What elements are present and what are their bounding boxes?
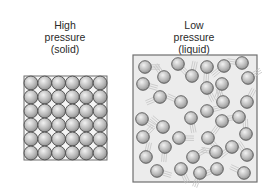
liquid-particle [218,60,231,73]
liquid-particle [211,163,224,176]
liquid-particle [202,132,215,145]
solid-particle [93,132,107,146]
liquid-particle [172,58,185,71]
liquid-particle [158,71,171,84]
liquid-particle [175,96,188,109]
solid-particle [66,90,80,104]
solid-particle [24,90,38,104]
liquid-particle [201,105,214,118]
solid-particle [52,132,66,146]
liquid-particle [226,141,239,154]
liquid-particle [137,78,150,91]
solid-particle [24,132,38,146]
solid-particle [93,118,107,132]
phase-diagram-canvas [0,0,273,192]
solid-particle [66,118,80,132]
solid-box-frame [24,76,107,160]
liquid-particle [194,167,207,180]
liquid-particle [157,121,170,134]
solid-particle [38,132,52,146]
solid-particle [24,104,38,118]
solid-particle [93,90,107,104]
solid-particle [79,76,93,90]
liquid-particle [154,91,167,104]
solid-particle [79,90,93,104]
solid-lattice-box [24,76,107,160]
liquid-particle [185,112,198,125]
solid-particle [66,132,80,146]
solid-particle [52,76,66,90]
liquid-particle [216,78,229,91]
solid-particle [79,118,93,132]
solid-particle [38,118,52,132]
liquid-particle [140,151,153,164]
solid-particle [52,146,66,160]
liquid-particle [201,82,214,95]
solid-particle [24,146,38,160]
liquid-particle [201,61,214,74]
liquid-particle [242,72,255,85]
solid-particle [52,104,66,118]
solid-particle [93,146,107,160]
liquid-particle [159,141,172,154]
liquid-particle [173,132,186,145]
solid-particle [66,76,80,90]
solid-particle [79,104,93,118]
solid-particle [79,132,93,146]
liquid-particle [241,96,254,109]
solid-particle [38,76,52,90]
solid-particle [38,146,52,160]
liquid-particle [139,61,152,74]
liquid-particle [136,113,149,126]
liquid-particle [186,70,199,83]
solid-particle [38,104,52,118]
liquid-particle [238,167,251,180]
liquid-particle [187,151,200,164]
solid-particle [93,104,107,118]
solid-particle [66,146,80,160]
solid-particle [24,118,38,132]
liquid-particle [236,57,249,70]
liquid-particle [217,96,230,109]
liquid-particle [216,115,229,128]
solid-particle [93,76,107,90]
liquid-particle [151,165,164,178]
liquid-particles-box [133,55,262,188]
liquid-particle [233,111,246,124]
liquid-particle [175,163,188,176]
solid-particle [24,76,38,90]
liquid-particle [241,149,254,162]
solid-particle [38,90,52,104]
solid-particle [52,118,66,132]
solid-particle [66,104,80,118]
solid-particle [79,146,93,160]
solid-particle [52,90,66,104]
liquid-particle [240,128,253,141]
liquid-particle [210,146,223,159]
liquid-particle [137,131,150,144]
